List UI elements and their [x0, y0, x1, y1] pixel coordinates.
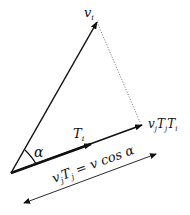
label-v-i: vi [84, 5, 94, 22]
vector-projection-diagram: vi α Ti vjTjTi vjTj = v cos α [0, 0, 190, 215]
label-T-i: Ti [73, 126, 85, 143]
vector-v-i [11, 22, 97, 173]
dotted-perpendicular [97, 22, 140, 122]
label-alpha: α [34, 144, 44, 160]
label-equation: vjTj = v cos α [50, 142, 137, 188]
label-projection: vjTjTi [148, 117, 177, 133]
